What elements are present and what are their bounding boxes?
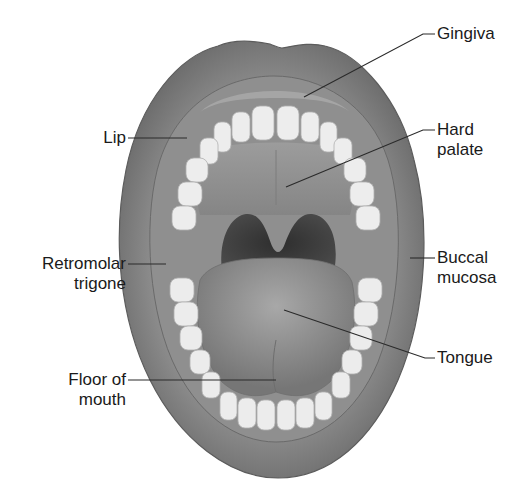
label-lip: Lip xyxy=(103,128,126,148)
tongue xyxy=(197,258,355,396)
label-gingiva: Gingiva xyxy=(437,24,495,44)
label-hard-palate: Hard palate xyxy=(437,120,483,160)
label-retromolar-trigone: Retromolar trigone xyxy=(42,254,126,294)
hard-palate xyxy=(197,143,353,216)
label-buccal-mucosa: Buccal mucosa xyxy=(437,248,497,288)
label-floor-of-mouth: Floor of mouth xyxy=(68,370,126,410)
label-tongue: Tongue xyxy=(437,348,493,368)
oral-cavity-diagram: Gingiva Hard palate Buccal mucosa Tongue… xyxy=(0,0,532,496)
